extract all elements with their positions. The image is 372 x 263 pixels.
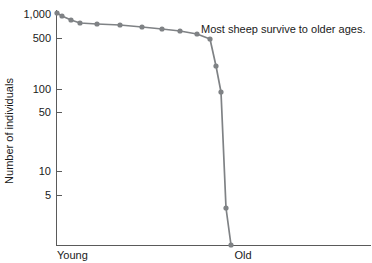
data-point: [228, 242, 233, 247]
data-point: [207, 36, 212, 41]
data-point: [68, 17, 73, 22]
y-tick-label-10: 10: [39, 165, 51, 177]
data-point: [177, 28, 182, 33]
data-point: [218, 89, 223, 94]
data-point: [139, 24, 144, 29]
survivorship-chart: Number of individuals 1,000 500 100 50 1…: [0, 0, 372, 263]
data-point: [54, 10, 59, 15]
data-point: [77, 20, 82, 25]
y-tick-label-5: 5: [45, 189, 51, 201]
data-point: [213, 63, 218, 68]
y-tick-label-1000: 1,000: [23, 8, 51, 20]
data-point: [94, 21, 99, 26]
data-point: [194, 31, 199, 36]
chart-annotation: Most sheep survive to older ages.: [201, 23, 365, 35]
y-tick-label-500: 500: [33, 32, 51, 44]
x-axis-label-young: Young: [57, 249, 88, 261]
data-point: [159, 26, 164, 31]
data-point: [223, 205, 228, 210]
y-tick-label-100: 100: [33, 83, 51, 95]
chart-canvas: Number of individuals 1,000 500 100 50 1…: [0, 0, 372, 263]
data-point: [59, 13, 64, 18]
y-axis-title: Number of individuals: [3, 78, 15, 184]
series-line-sheep-survivorship: [57, 13, 231, 245]
data-point: [117, 22, 122, 27]
y-tick-label-50: 50: [39, 106, 51, 118]
x-axis-label-old: Old: [234, 249, 251, 261]
